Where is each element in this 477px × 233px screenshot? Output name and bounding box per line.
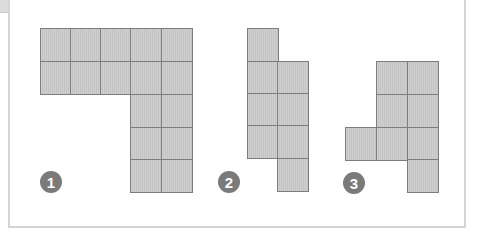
grid-cell xyxy=(247,28,279,62)
grid-cell xyxy=(70,28,102,62)
grid-cell xyxy=(407,159,439,193)
grid-cell xyxy=(161,28,193,62)
grid-cell xyxy=(40,28,72,62)
grid-cell xyxy=(345,127,377,161)
grid-cell xyxy=(161,61,193,95)
grid-cell xyxy=(130,28,162,62)
grid-cell xyxy=(277,93,309,127)
grid-cell xyxy=(277,125,309,159)
grid-cell xyxy=(100,28,132,62)
corner-tab xyxy=(0,0,8,13)
grid-cell xyxy=(407,127,439,161)
grid-cell xyxy=(376,127,408,161)
grid-cell xyxy=(130,127,162,161)
grid-cell xyxy=(100,61,132,95)
grid-cell xyxy=(130,61,162,95)
grid-cell xyxy=(407,61,439,95)
grid-cell xyxy=(247,93,279,127)
grid-cell xyxy=(376,61,408,95)
grid-cell xyxy=(40,61,72,95)
grid-cell xyxy=(277,61,309,95)
grid-cell xyxy=(277,158,309,192)
grid-cell xyxy=(407,94,439,128)
grid-cell xyxy=(161,94,193,128)
grid-cell xyxy=(70,61,102,95)
grid-cell xyxy=(130,159,162,193)
grid-cell xyxy=(247,61,279,95)
number-badge-icon: 1 xyxy=(40,171,62,193)
grid-cell xyxy=(376,94,408,128)
grid-cell xyxy=(130,94,162,128)
number-badge-icon: 3 xyxy=(343,172,365,194)
grid-cell xyxy=(161,127,193,161)
grid-cell xyxy=(247,125,279,159)
grid-cell xyxy=(161,159,193,193)
number-badge-icon: 2 xyxy=(218,171,240,193)
